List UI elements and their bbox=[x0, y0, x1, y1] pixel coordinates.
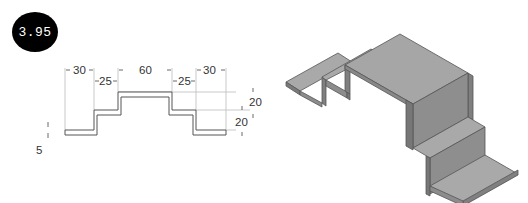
isometric-view bbox=[0, 0, 528, 203]
